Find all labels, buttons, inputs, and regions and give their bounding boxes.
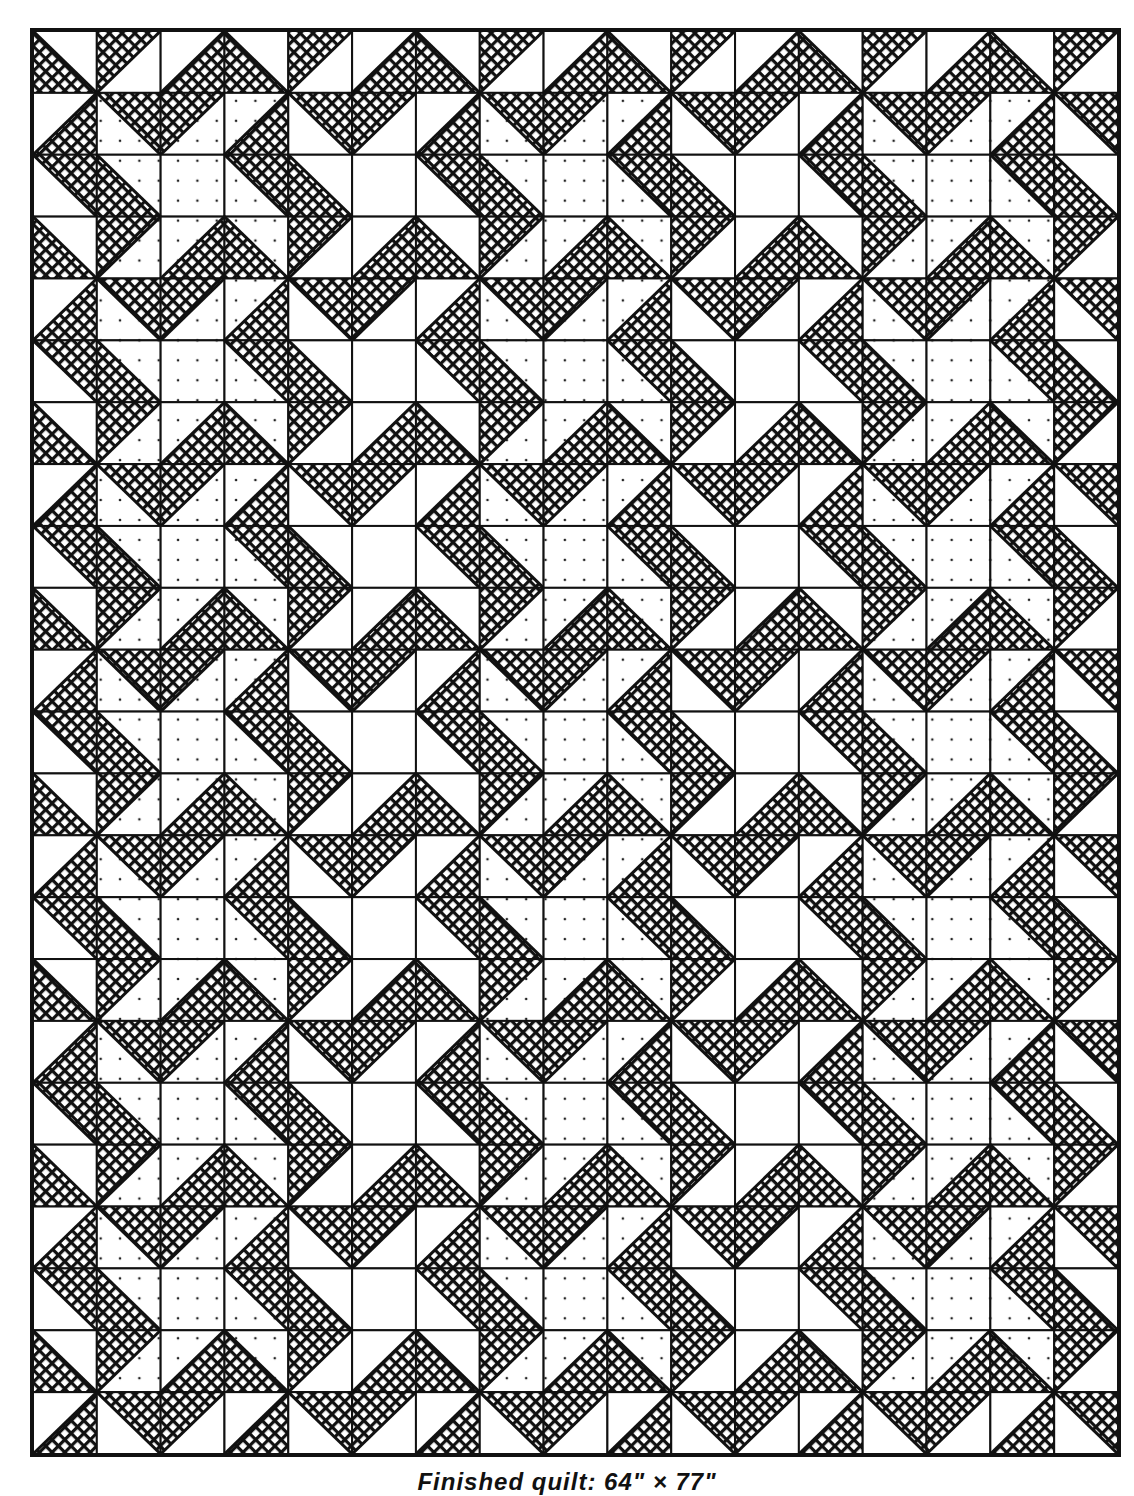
quilt-block — [927, 959, 991, 1021]
quilt-block — [544, 1207, 608, 1269]
quilt-block — [161, 526, 225, 588]
quilt-block — [927, 650, 991, 712]
quilt-block — [671, 897, 735, 959]
quilt-block — [607, 835, 671, 897]
quilt-block — [480, 464, 544, 526]
quilt-block — [97, 897, 161, 959]
quilt-block — [288, 712, 352, 774]
quilt-block — [352, 31, 416, 93]
quilt-block — [480, 1207, 544, 1269]
quilt-block — [799, 155, 863, 217]
quilt-block — [288, 959, 352, 1021]
quilt-block — [990, 712, 1054, 774]
quilt-block — [735, 278, 799, 340]
quilt-block — [671, 959, 735, 1021]
quilt-block — [288, 340, 352, 402]
quilt-block — [33, 464, 97, 526]
quilt-block — [33, 217, 97, 279]
quilt-block — [224, 217, 288, 279]
quilt-block — [544, 278, 608, 340]
quilt-block — [480, 897, 544, 959]
quilt-block — [97, 1021, 161, 1083]
quilt-block — [97, 1268, 161, 1330]
quilt-block — [607, 155, 671, 217]
quilt-block — [607, 1021, 671, 1083]
quilt-block — [352, 1083, 416, 1145]
quilt-block — [288, 897, 352, 959]
quilt-block — [33, 93, 97, 155]
quilt-block — [224, 712, 288, 774]
quilt-block — [33, 340, 97, 402]
quilt-block — [863, 31, 927, 93]
quilt-block — [416, 93, 480, 155]
quilt-block — [671, 712, 735, 774]
quilt-block — [224, 1392, 288, 1454]
quilt-block — [990, 835, 1054, 897]
quilt-block — [990, 1392, 1054, 1454]
quilt-block — [927, 155, 991, 217]
quilt-block — [799, 835, 863, 897]
quilt-block — [288, 31, 352, 93]
quilt-block — [224, 1021, 288, 1083]
quilt-block — [735, 340, 799, 402]
quilt-block — [735, 1145, 799, 1207]
quilt-block — [97, 31, 161, 93]
quilt-block — [990, 217, 1054, 279]
quilt-block — [607, 1083, 671, 1145]
quilt-block — [33, 402, 97, 464]
quilt-block — [97, 464, 161, 526]
quilt-block — [607, 1392, 671, 1454]
quilt-block — [288, 93, 352, 155]
quilt-block — [799, 217, 863, 279]
quilt-block — [927, 1021, 991, 1083]
quilt-block — [1054, 526, 1118, 588]
quilt-block — [927, 217, 991, 279]
quilt-block — [607, 1268, 671, 1330]
quilt-block — [671, 773, 735, 835]
quilt-block — [671, 155, 735, 217]
quilt-block — [1054, 340, 1118, 402]
quilt-block — [799, 526, 863, 588]
quilt-block — [161, 155, 225, 217]
quilt-block — [799, 1330, 863, 1392]
quilt-block — [735, 1268, 799, 1330]
quilt-block — [352, 1392, 416, 1454]
quilt-block — [288, 835, 352, 897]
quilt-block — [352, 1207, 416, 1269]
quilt-block — [352, 1021, 416, 1083]
quilt-block — [161, 1145, 225, 1207]
quilt-block — [161, 1207, 225, 1269]
quilt-block — [927, 464, 991, 526]
quilt-block — [288, 217, 352, 279]
quilt-block — [161, 1330, 225, 1392]
quilt-block — [1054, 278, 1118, 340]
quilt-block — [863, 217, 927, 279]
quilt-block — [799, 588, 863, 650]
quilt-block — [352, 278, 416, 340]
quilt-block — [735, 155, 799, 217]
quilt-block — [480, 526, 544, 588]
quilt-block — [735, 897, 799, 959]
quilt-block — [352, 959, 416, 1021]
quilt-block — [671, 402, 735, 464]
quilt-block — [735, 1330, 799, 1392]
quilt-block — [416, 526, 480, 588]
quilt-block — [544, 1330, 608, 1392]
quilt-block — [544, 959, 608, 1021]
quilt-block — [480, 278, 544, 340]
quilt-block — [863, 1083, 927, 1145]
quilt-block — [927, 1330, 991, 1392]
quilt-block — [799, 1021, 863, 1083]
quilt-block — [352, 402, 416, 464]
quilt-block — [352, 1268, 416, 1330]
quilt-block — [288, 1207, 352, 1269]
quilt-block — [480, 402, 544, 464]
quilt-block — [352, 340, 416, 402]
quilt-block — [97, 1145, 161, 1207]
quilt-block — [97, 93, 161, 155]
quilt-block — [799, 1083, 863, 1145]
quilt-block — [927, 526, 991, 588]
quilt-block — [416, 155, 480, 217]
quilt-block — [97, 1330, 161, 1392]
quilt-block — [480, 773, 544, 835]
